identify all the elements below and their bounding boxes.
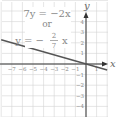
fraction-denominator: 7: [52, 42, 56, 50]
x-tick-label: −4: [40, 66, 49, 72]
fraction-numerator: 2: [52, 32, 56, 40]
y-tick-label: −1: [76, 72, 84, 78]
x-tick-label: −7: [8, 66, 17, 72]
y-axis-label: y: [83, 0, 90, 11]
x-tick-label: −5: [29, 66, 38, 72]
equation-line-1: 7y = −2x: [23, 8, 70, 19]
y-tick-label: 3: [81, 29, 85, 35]
y-tick-label: 4: [81, 19, 85, 25]
x-tick-label: −2: [61, 66, 69, 72]
y-tick-label: 1: [81, 50, 85, 56]
x-tick-label: −6: [18, 66, 27, 72]
equation-or: or: [42, 19, 52, 29]
y-tick-label: −2: [76, 82, 84, 88]
chart-svg: −7−6−5−4−3−2−114321−1−2−3−4 7y = −2x or …: [0, 0, 116, 117]
equation-line-2-x: x: [62, 35, 68, 46]
x-tick-label: −3: [50, 66, 59, 72]
equation-line-2-prefix: y = −: [14, 35, 44, 46]
y-tick-label: 2: [81, 40, 85, 46]
y-tick-label: −3: [76, 93, 85, 99]
y-axis-arrow-icon: [84, 12, 89, 18]
coordinate-plane-chart: −7−6−5−4−3−2−114321−1−2−3−4 7y = −2x or …: [0, 0, 116, 117]
equation-label: 7y = −2x or y = − 2 7 x: [14, 7, 71, 50]
y-tick-label: −4: [76, 103, 85, 109]
x-axis-label: x: [110, 58, 116, 69]
